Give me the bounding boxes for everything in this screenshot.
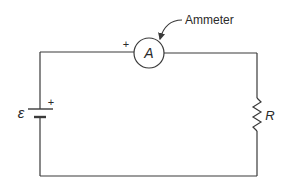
ammeter: A + [123,38,164,68]
battery: + ε [18,96,55,121]
emf-symbol: ε [18,104,25,121]
battery-plus-sign: + [48,96,54,108]
circuit-diagram: A + Ammeter + ε R [0,0,284,190]
resistor: R [253,98,275,131]
resistor-zigzag [253,98,261,131]
ammeter-plus-sign: + [123,38,129,50]
callout-arrow [160,20,182,39]
resistor-label: R [265,108,274,123]
ammeter-symbol: A [143,45,153,61]
ammeter-callout-label: Ammeter [185,13,234,27]
